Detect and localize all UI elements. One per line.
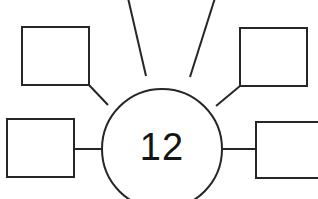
connector-upper-right-line (216, 86, 240, 106)
bubble-map-diagram: 12 (0, 0, 318, 199)
center-number-label: 12 (140, 126, 184, 168)
node-box-upper-right[interactable] (240, 28, 307, 86)
connector-upper-left-line (89, 85, 108, 105)
node-box-middle-left[interactable] (7, 119, 74, 177)
worksheet-canvas: 12 (0, 0, 318, 199)
connector-top-right-line (190, 0, 215, 77)
connector-top-left-line (128, 0, 146, 76)
node-box-middle-right[interactable] (256, 122, 318, 178)
node-box-upper-left[interactable] (22, 27, 89, 85)
